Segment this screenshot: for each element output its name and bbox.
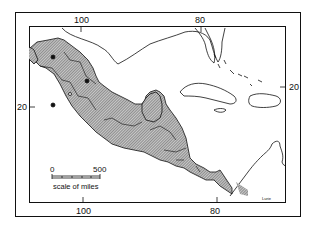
city-dot — [51, 55, 55, 59]
longitude-label-bottom-100: 100 — [76, 207, 91, 216]
yucatan — [142, 92, 162, 122]
hispaniola — [249, 94, 281, 108]
scale-bar — [52, 174, 100, 179]
colombia-range — [236, 182, 248, 196]
cartographer-signature: Lurie — [262, 196, 271, 201]
longitude-label-bottom-80: 80 — [210, 207, 220, 216]
city-dot — [51, 103, 55, 107]
scale-end-label: 500 — [93, 165, 106, 174]
jamaica — [214, 109, 226, 113]
cuba — [180, 83, 236, 104]
city-dot — [85, 79, 89, 83]
longitude-label-top-80: 80 — [195, 16, 205, 25]
map-canvas — [0, 0, 315, 226]
bahamas — [214, 54, 262, 86]
longitude-label-top-100: 100 — [74, 16, 89, 25]
city-dot — [69, 93, 72, 96]
scale-start-label: 0 — [50, 165, 54, 174]
latitude-label-right-20: 20 — [289, 83, 299, 92]
latitude-label-left-20: 20 — [17, 103, 27, 112]
scale-caption: scale of miles — [53, 182, 98, 191]
